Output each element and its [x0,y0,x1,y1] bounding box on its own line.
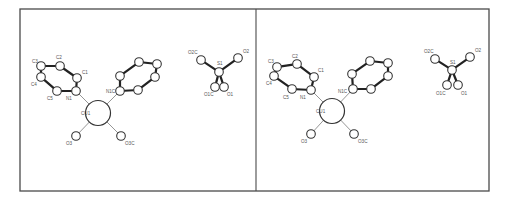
atom-o2c [197,56,206,65]
atom-r2e [134,86,143,95]
atom-label-c2: C2 [292,54,298,59]
covalent-bond-R2b-R2c [143,62,152,63]
atom-o3c [117,132,126,141]
covalent-bond-R2a-R2b [123,65,135,74]
atom-label-n1: N1 [300,95,306,100]
coordination-bond-N1-Cu1 [79,94,89,104]
atom-label-o3: O3 [301,139,308,144]
atom-c5 [288,85,297,94]
figure-frame [20,9,489,191]
covalent-bond-S1-O1 [454,74,457,81]
atom-label-c1: C1 [82,70,88,75]
atom-label-o2: O2 [475,48,482,53]
covalent-bond-S1-O1 [220,76,222,83]
covalent-bond-C5-C4 [277,79,288,87]
atom-label-c1: C1 [318,68,324,73]
atom-label-s1: S1 [450,60,456,65]
covalent-bond-S1-O1C [448,74,450,81]
atom-o3 [307,130,316,139]
covalent-bond-R2d-R2e [374,79,384,87]
covalent-bond-O2C-S1 [205,62,216,69]
atom-label-c3: C3 [268,59,274,64]
covalent-bond-C5-C4 [44,80,54,88]
atom-label-cu1: CU1 [316,109,326,114]
covalent-bond-R2c-R2d [156,68,157,73]
covalent-bond-S1-O1C [216,76,218,83]
atom-c3 [273,63,282,72]
atom-o1 [454,81,463,90]
atom-s1 [448,66,457,75]
atom-label-o1c: O1C [204,92,214,97]
covalent-bond-O2-S1 [222,61,234,70]
atom-n1 [307,86,316,95]
atom-label-o3c: O3C [358,139,368,144]
atom-label-o1: O1 [227,92,234,97]
atom-label-o1: O1 [461,91,468,96]
molecular-structure-figure: C3C2C1N1C5C4N1CCU1O3O3CO2CO2S1O1CO1 C3C2… [0,0,505,199]
covalent-bond-R2b-R2c [374,61,383,62]
atom-label-o3c: O3C [125,141,135,146]
covalent-bond-O2C-S1 [439,61,449,67]
atom-label-c2: C2 [56,55,62,60]
atom-r2d [384,72,393,81]
atom-o2 [234,54,243,63]
atom-label-c4: C4 [31,82,37,87]
atom-r2c [384,59,393,68]
atom-n1c [349,85,358,94]
covalent-bond-C2-C1 [64,68,74,75]
coordination-bond-O3C-Cu1 [341,120,351,131]
atom-r2b [366,57,375,66]
atom-label-c4: C4 [266,81,272,86]
atom-r2a [348,70,357,79]
covalent-bond-C3-C2 [281,65,292,67]
coordination-bond-N1-Cu1 [314,93,323,102]
atom-r2a [116,72,125,81]
atom-label-o3: O3 [66,141,73,146]
atom-o2 [466,53,475,62]
atom-r2b [135,58,144,67]
atom-c4 [37,73,46,82]
atom-c4 [270,72,279,81]
atom-o1c [211,83,220,92]
atom-o2c [431,55,440,64]
atom-o3 [72,132,81,141]
atom-r2d [151,73,160,82]
atom-n1c [116,87,125,96]
atom-n1 [72,87,81,96]
atom-c1 [73,74,82,83]
coordination-bond-O3-Cu1 [79,122,89,133]
atom-r2c [153,60,162,69]
atom-label-o1c: O1C [436,91,446,96]
covalent-bond-R2a-R2b [355,64,366,72]
covalent-bond-O2-S1 [455,60,466,68]
atom-label-o2: O2 [243,49,250,54]
atom-label-s1: S1 [217,61,223,66]
atom-c5 [53,87,62,96]
coordination-bond-O3-Cu1 [314,120,324,131]
covalent-bond-C2-C1 [300,67,310,75]
atom-c2 [293,60,302,69]
atom-o1 [220,83,229,92]
covalent-bond-N1-C5 [296,89,306,90]
atom-c3 [37,62,46,71]
atom-o3c [350,130,359,139]
covalent-bond-C1-N1 [312,81,313,86]
stereo-diagram: C3C2C1N1C5C4N1CCU1O3O3CO2CO2S1O1CO1 C3C2… [0,0,505,199]
atom-label-n1c: N1C [338,89,348,94]
atom-o1c [443,81,452,90]
atom-r2e [367,85,376,94]
atom-label-cu1: CU1 [81,111,91,116]
atom-c2 [56,62,65,71]
coordination-bond-N1C-Cu1 [107,94,117,104]
atom-s1 [215,68,224,77]
atom-label-c5: C5 [47,96,53,101]
atom-c1 [310,73,319,82]
atom-label-n1: N1 [66,96,72,101]
stereo-panel-left: C3C2C1N1C5C4N1CCU1O3O3CO2CO2S1O1CO1 [31,49,250,146]
atom-label-o2c: O2C [424,49,434,54]
covalent-bond-R2d-R2e [141,80,151,88]
atom-label-o2c: O2C [188,50,198,55]
stereo-panel-right: C3C2C1N1C5C4N1CCU1O3O3CO2CO2S1O1CO1 [266,48,482,144]
atom-label-c5: C5 [283,95,289,100]
atom-label-c3: C3 [32,59,38,64]
